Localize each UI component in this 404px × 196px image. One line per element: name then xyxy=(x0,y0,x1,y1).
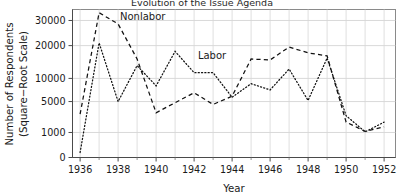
y-tick-label: 20000 xyxy=(35,40,66,51)
x-tick-label: 1950 xyxy=(334,164,358,175)
x-tick-label: 1938 xyxy=(106,164,130,175)
y-tick-labels: 010005000100002000030000 xyxy=(35,15,66,163)
x-tick-label: 1952 xyxy=(372,164,396,175)
y-tick-label: 1000 xyxy=(41,127,65,138)
x-tick-label: 1948 xyxy=(296,164,320,175)
y-tick-label: 5000 xyxy=(41,96,65,107)
y-axis-title-line2: (Square−Root Scale) xyxy=(18,31,29,137)
series-label-labor: Labor xyxy=(198,50,227,61)
y-axis-title-line1: Number of Respondents xyxy=(4,22,15,145)
x-tick-label: 1942 xyxy=(182,164,206,175)
y-tick-label: 30000 xyxy=(35,15,66,26)
chart-title: Evolution of the Issue Agenda xyxy=(131,0,273,8)
x-tick-labels: 193619381940194219441946194819501952 xyxy=(68,164,396,175)
x-tick-label: 1936 xyxy=(68,164,92,175)
y-tick-label: 0 xyxy=(59,152,65,163)
grid-lines xyxy=(73,10,396,158)
y-tick-label: 10000 xyxy=(35,73,66,84)
x-axis-title: Year xyxy=(222,183,245,194)
x-tick-label: 1940 xyxy=(144,164,168,175)
x-tick-label: 1946 xyxy=(258,164,282,175)
chart-container: Evolution of the Issue Agenda 0100050001… xyxy=(0,0,404,196)
plot-frame xyxy=(73,10,396,158)
issue-agenda-line-chart: Evolution of the Issue Agenda 0100050001… xyxy=(0,0,404,196)
series-label-nonlabor: Nonlabor xyxy=(120,11,166,22)
x-tick-label: 1944 xyxy=(220,164,244,175)
